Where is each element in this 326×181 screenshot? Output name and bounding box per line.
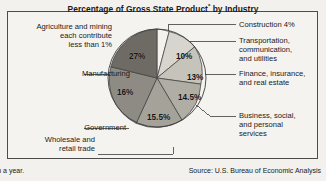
- pie-label-manufacturing: 27%: [129, 52, 145, 61]
- callout-transportation: Transportation, communication, and utili…: [239, 36, 325, 64]
- leader-line-wholesale: [98, 147, 173, 154]
- chart-source: Source: U.S. Bureau of Economic Analysis: [189, 166, 321, 175]
- chart-footnote: ed in a year.: [0, 166, 24, 175]
- chart-title-main: Percentage of Gross State Product: [68, 4, 208, 14]
- chart-title: Percentage of Gross State Product* by In…: [0, 1, 326, 14]
- pie-label-wholesale: 15.5%: [147, 113, 170, 122]
- callout-construction: Construction 4%: [239, 20, 325, 29]
- callout-business-services: Business, social, and personal services: [239, 111, 325, 139]
- pie-label-transportation: 10%: [176, 52, 192, 61]
- pie-label-business: 14.5%: [178, 93, 201, 102]
- pie-label-finance: 13%: [187, 73, 203, 82]
- note-agriculture-mining: Agriculture and mining each contribute l…: [0, 22, 112, 50]
- callout-wholesale-retail-trade: Wholesale and retail trade: [0, 135, 95, 153]
- chart-figure: Percentage of Gross State Product* by In…: [0, 0, 326, 181]
- callout-manufacturing: Manufacturing: [0, 69, 130, 78]
- callout-finance: Finance, insurance, and real estate: [239, 69, 325, 87]
- pie-label-government: 16%: [117, 88, 133, 97]
- chart-title-tail: by Industry: [210, 4, 258, 14]
- callout-government: Government: [0, 123, 126, 132]
